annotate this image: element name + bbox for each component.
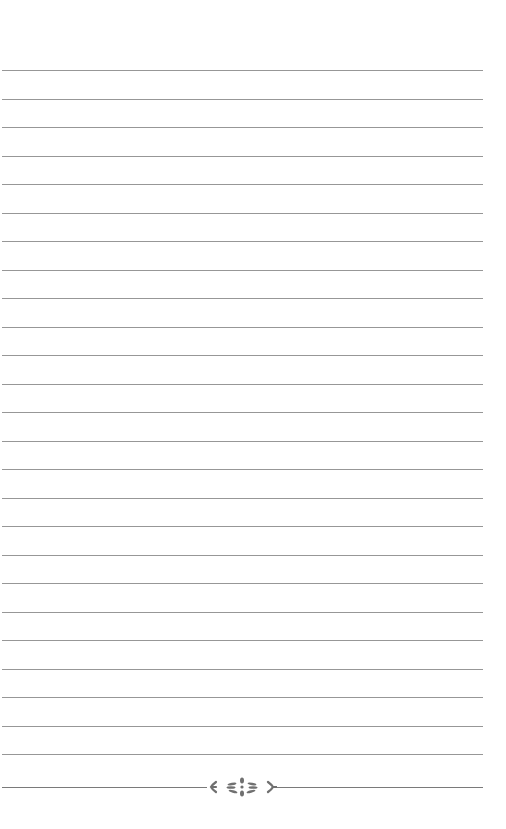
ruled-line [2,355,483,356]
ruled-line [2,640,483,641]
ruled-line [2,412,483,413]
floral-divider-icon [207,776,277,798]
divider-line-right [277,787,483,788]
ruled-line [2,241,483,242]
ruled-line [2,184,483,185]
ruled-line [2,612,483,613]
ruled-line [2,726,483,727]
ruled-line [2,298,483,299]
ruled-line [2,327,483,328]
ruled-line [2,526,483,527]
ruled-line [2,583,483,584]
ruled-line [2,213,483,214]
ruled-line [2,498,483,499]
ruled-line [2,697,483,698]
ruled-line [2,754,483,755]
ruled-line [2,127,483,128]
ruled-line [2,669,483,670]
ruled-line [2,384,483,385]
ruled-line [2,555,483,556]
ruled-line [2,469,483,470]
divider-line-left [2,787,207,788]
ruled-line [2,441,483,442]
ruled-line [2,99,483,100]
footer-ornament-divider [2,776,483,798]
ruled-line [2,70,483,71]
ruled-line [2,270,483,271]
lined-page [0,0,506,829]
ruled-line [2,156,483,157]
